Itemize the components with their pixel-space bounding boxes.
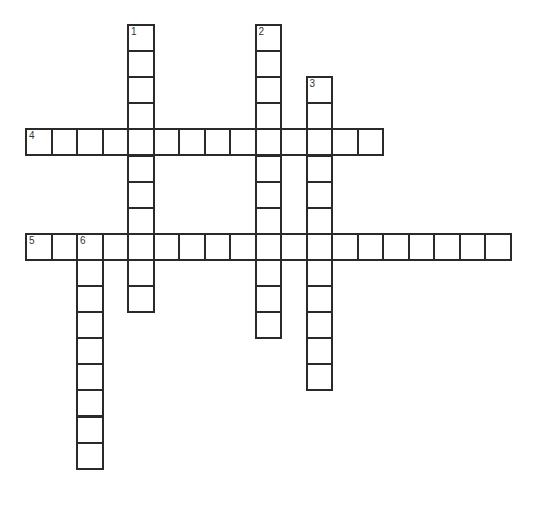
crossword-cell[interactable] [357, 128, 385, 156]
crossword-cell[interactable] [51, 233, 79, 261]
crossword-cell[interactable] [76, 442, 104, 470]
crossword-cell[interactable] [127, 102, 155, 130]
crossword-cell[interactable]: 3 [306, 76, 334, 104]
crossword-cell[interactable]: 1 [127, 24, 155, 52]
crossword-cell[interactable] [255, 155, 283, 183]
crossword-cell[interactable] [306, 285, 334, 313]
crossword-cell[interactable] [127, 233, 155, 261]
crossword-cell[interactable] [255, 285, 283, 313]
crossword-cell[interactable] [127, 155, 155, 183]
clue-number: 3 [310, 78, 316, 90]
crossword-cell[interactable] [204, 128, 232, 156]
crossword-cell[interactable] [306, 233, 334, 261]
crossword-cell[interactable] [306, 337, 334, 365]
clue-number: 6 [80, 235, 86, 247]
crossword-cell[interactable] [102, 128, 130, 156]
clue-number: 1 [131, 26, 137, 38]
crossword-cell[interactable] [306, 207, 334, 235]
crossword-cell[interactable] [76, 337, 104, 365]
crossword-cell[interactable] [76, 389, 104, 417]
crossword-cell[interactable] [357, 233, 385, 261]
crossword-cell[interactable] [280, 233, 308, 261]
crossword-cell[interactable] [76, 311, 104, 339]
crossword-cell[interactable] [127, 50, 155, 78]
crossword-cell[interactable] [127, 259, 155, 287]
crossword-cell[interactable]: 5 [25, 233, 53, 261]
crossword-cell[interactable] [76, 363, 104, 391]
crossword-cell[interactable] [76, 259, 104, 287]
clue-number: 5 [29, 235, 35, 247]
crossword-cell[interactable] [153, 128, 181, 156]
crossword-cell[interactable] [255, 181, 283, 209]
crossword-cell[interactable] [153, 233, 181, 261]
crossword-cell[interactable] [255, 76, 283, 104]
crossword-cell[interactable] [127, 128, 155, 156]
crossword-cell[interactable] [255, 128, 283, 156]
crossword-cell[interactable] [255, 311, 283, 339]
crossword-cell[interactable] [306, 259, 334, 287]
crossword-cell[interactable] [255, 207, 283, 235]
crossword-cell[interactable] [76, 285, 104, 313]
crossword-cell[interactable] [306, 311, 334, 339]
crossword-cell[interactable]: 2 [255, 24, 283, 52]
crossword-cell[interactable] [331, 233, 359, 261]
crossword-cell[interactable] [433, 233, 461, 261]
crossword-cell[interactable] [280, 128, 308, 156]
clue-number: 2 [259, 26, 265, 38]
crossword-grid: 123456 [0, 0, 533, 519]
crossword-cell[interactable] [255, 259, 283, 287]
crossword-cell[interactable] [178, 233, 206, 261]
crossword-cell[interactable] [306, 102, 334, 130]
crossword-cell[interactable] [306, 181, 334, 209]
crossword-cell[interactable] [229, 233, 257, 261]
crossword-cell[interactable] [331, 128, 359, 156]
crossword-cell[interactable]: 6 [76, 233, 104, 261]
crossword-cell[interactable] [76, 128, 104, 156]
crossword-cell[interactable] [382, 233, 410, 261]
crossword-cell[interactable] [484, 233, 512, 261]
crossword-cell[interactable] [255, 50, 283, 78]
crossword-cell[interactable] [102, 233, 130, 261]
crossword-cell[interactable] [76, 416, 104, 444]
crossword-cell[interactable] [459, 233, 487, 261]
crossword-cell[interactable] [306, 363, 334, 391]
crossword-cell[interactable] [204, 233, 232, 261]
crossword-cell[interactable] [127, 285, 155, 313]
crossword-cell[interactable] [178, 128, 206, 156]
crossword-cell[interactable] [255, 102, 283, 130]
crossword-cell[interactable] [127, 76, 155, 104]
crossword-cell[interactable] [229, 128, 257, 156]
crossword-cell[interactable] [51, 128, 79, 156]
crossword-cell[interactable] [408, 233, 436, 261]
crossword-cell[interactable]: 4 [25, 128, 53, 156]
crossword-cell[interactable] [255, 233, 283, 261]
crossword-cell[interactable] [306, 155, 334, 183]
clue-number: 4 [29, 130, 35, 142]
crossword-cell[interactable] [306, 128, 334, 156]
crossword-cell[interactable] [127, 207, 155, 235]
crossword-cell[interactable] [127, 181, 155, 209]
